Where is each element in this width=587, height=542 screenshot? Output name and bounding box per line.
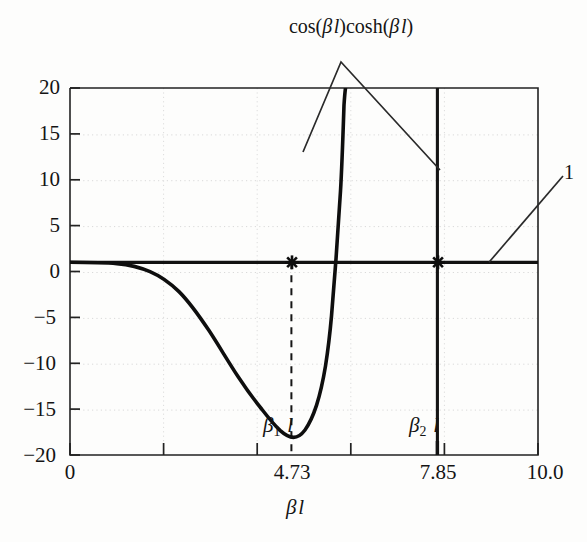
title-beta-1: β [322, 15, 334, 37]
title-text-cos: cos( [289, 15, 322, 37]
y-tick-label-10: 10 [8, 169, 60, 190]
y-tick-label-20: 20 [8, 77, 60, 98]
figure-container: cos(βl)cosh(βl) 20 15 10 5 0 −5 −10 −15 … [0, 0, 587, 542]
gridlines-vertical [164, 88, 445, 455]
plot-frame [70, 88, 538, 455]
beta2-label: β2 l [409, 415, 439, 439]
x-axis-ticks [70, 443, 538, 455]
marker-intersection-beta1 [285, 255, 299, 269]
title-text-cosh: )cosh( [339, 15, 389, 37]
beta1-label: β1 l [263, 415, 293, 439]
line-one-label: 1 [564, 162, 574, 182]
one-leader-line [489, 176, 563, 262]
y-axis-ticks [70, 88, 80, 455]
y-tick-label-neg15: −15 [4, 399, 56, 420]
title-beta-2: β [389, 15, 401, 37]
gridlines-horizontal [70, 135, 538, 410]
x-tick-label-7-85: 7.85 [398, 462, 478, 483]
x-tick-label-4-73: 4.73 [252, 462, 332, 483]
chart-title: cos(βl)cosh(βl) [261, 16, 441, 36]
x-axis-title: βl [255, 497, 335, 518]
beta1-symbol: β [263, 413, 273, 437]
beta1-l: l [287, 413, 293, 437]
x-tick-label-10-0: 10.0 [505, 462, 585, 483]
title-text-close: ) [406, 15, 413, 37]
title-leader-line [303, 62, 440, 170]
y-tick-label-neg5: −5 [4, 307, 56, 328]
x-tick-label-0: 0 [30, 462, 110, 483]
x-axis-l: l [298, 495, 304, 519]
y-tick-label-0: 0 [8, 261, 60, 282]
y-tick-label-5: 5 [8, 215, 60, 236]
x-axis-beta: β [286, 495, 298, 519]
marker-intersection-beta2 [431, 255, 445, 269]
y-tick-label-15: 15 [8, 123, 60, 144]
beta2-symbol: β [409, 413, 419, 437]
y-tick-label-neg10: −10 [4, 353, 56, 374]
beta2-l: l [433, 413, 439, 437]
